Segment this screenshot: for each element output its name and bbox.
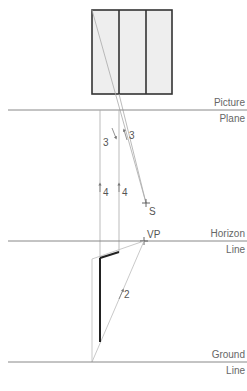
station-point-label: S: [149, 206, 156, 217]
horizon-label-top: Horizon: [211, 228, 245, 239]
ground-label-top: Ground: [212, 349, 245, 360]
ray-arrow-3b: [124, 130, 127, 140]
perspective-diagram: Picture Plane 3 3 4 4 S Horizon Line VP …: [0, 0, 247, 391]
ray-arrow-2: [119, 290, 123, 299]
step-label-2: 2: [124, 289, 130, 300]
building-perspective-edges: [100, 252, 119, 342]
horizon-label-bottom: Line: [226, 244, 245, 255]
projection-verticals: [100, 110, 119, 258]
ray-arrow-3a: [112, 128, 116, 138]
step-label-3b: 3: [129, 130, 135, 141]
vanishing-point-label: VP: [147, 229, 161, 240]
ground-label-bottom: Line: [226, 365, 245, 376]
step-label-4a: 4: [103, 187, 109, 198]
picture-plane-label-top: Picture: [214, 97, 246, 108]
picture-plane-label-bottom: Plane: [219, 113, 245, 124]
step-label-3a: 3: [103, 137, 109, 148]
step-label-4b: 4: [122, 187, 128, 198]
